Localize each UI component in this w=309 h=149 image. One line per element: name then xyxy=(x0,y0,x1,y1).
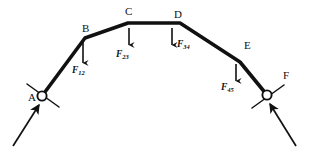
load-label-f45: F45 xyxy=(221,83,234,94)
diagram-canvas xyxy=(0,0,309,149)
joint-label-b: B xyxy=(82,23,90,34)
load-label-f12: F12 xyxy=(72,66,85,77)
load-label-f45-subscript: 45 xyxy=(227,86,233,93)
joint-label-e: E xyxy=(244,40,251,51)
joint-label-a: A xyxy=(28,92,36,103)
joint-label-d: D xyxy=(174,9,182,20)
support-a-pin-circle xyxy=(37,91,46,100)
load-label-f34: F34 xyxy=(177,40,190,51)
reaction-arrow-a xyxy=(13,105,39,146)
support-f-pin-circle xyxy=(262,90,271,99)
joint-label-f: F xyxy=(283,70,289,81)
joint-label-c: C xyxy=(125,6,133,17)
reaction-arrow-f xyxy=(270,104,296,146)
load-label-f12-subscript: 12 xyxy=(78,69,84,76)
load-label-f34-subscript: 34 xyxy=(183,43,189,50)
free-body-diagram-figure: A B C D E F F12 F23 F34 F45 xyxy=(0,0,309,149)
load-label-f23: F23 xyxy=(116,50,129,61)
load-label-f23-subscript: 23 xyxy=(122,53,128,60)
